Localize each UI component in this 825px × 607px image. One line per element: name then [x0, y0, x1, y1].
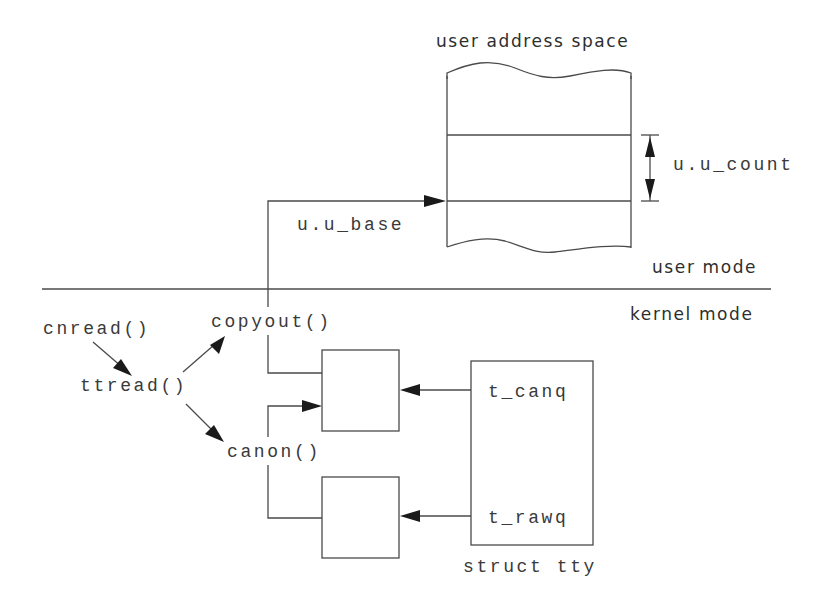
user-address-space-block [447, 63, 631, 253]
t-canq-label: t_canq [488, 382, 568, 402]
u-base-label: u.u_base [297, 215, 404, 235]
ttread-label: ttread() [80, 376, 187, 396]
canon-from-rawq-buffer-line [268, 465, 322, 518]
arrowhead-right-icon [424, 195, 446, 207]
wavy-top-edge [447, 63, 631, 79]
cnread-label: cnread() [43, 319, 150, 339]
user-mode-label: user mode [652, 257, 757, 277]
raw-queue-buffer [322, 477, 399, 558]
user-address-space-title: user address space [436, 31, 629, 51]
count-dimension-arrow [641, 135, 659, 201]
struct-tty-caption: struct tty [463, 557, 597, 577]
arrowhead-down-icon [645, 179, 655, 199]
wavy-bottom-edge [447, 239, 631, 252]
canonical-queue-buffer [322, 350, 399, 431]
u-count-label: u.u_count [673, 155, 794, 175]
kernel-mode-label: kernel mode [630, 304, 754, 324]
canon-to-canq-buffer-line [268, 406, 304, 437]
canon-label: canon() [227, 442, 321, 462]
copyout-from-buffer-line [268, 335, 322, 373]
arrowhead-canon-buffer-icon [302, 400, 322, 412]
arrowhead-ttread-copyout-icon [210, 336, 225, 354]
t-rawq-label: t_rawq [488, 508, 568, 528]
copyout-label: copyout() [211, 312, 332, 332]
arrowhead-canq-icon [400, 384, 420, 396]
arrowhead-up-icon [645, 137, 655, 157]
arrowhead-rawq-icon [400, 510, 420, 522]
tty-read-diagram: user address space u.u_count u.u_base us… [0, 0, 825, 607]
arrowhead-ttread-canon-icon [205, 425, 224, 442]
ttread-to-copyout-line [183, 345, 214, 372]
ttread-to-canon-line [186, 404, 214, 432]
